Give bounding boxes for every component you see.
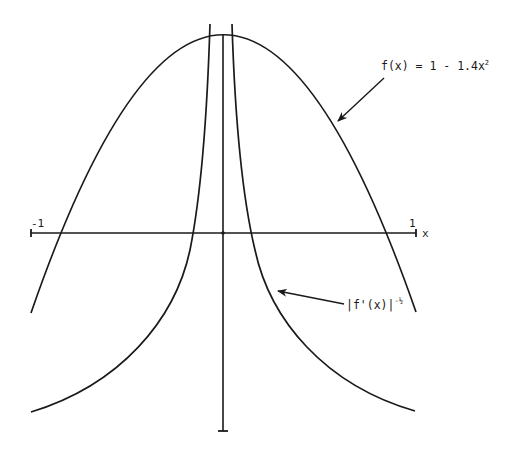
origin-dot [221,231,225,235]
parabola-label-base: f(x) = 1 - 1.4x [381,59,485,73]
derivative-label-base: |f'(x)| [346,298,394,312]
derivative-curve-right [232,24,415,411]
diagram-canvas: -1 1 x f(x) = 1 - 1.4x2 |f'(x)|-½ [0,0,505,461]
derivative-curve-left [31,24,210,412]
x-axis-right-tick-label: 1 [409,217,416,230]
x-axis-left-tick-label: -1 [31,217,44,230]
parabola-label-exponent: 2 [485,59,489,67]
parabola-label: f(x) = 1 - 1.4x2 [381,59,489,73]
derivative-label: |f'(x)|-½ [346,297,403,312]
derivative-label-arrow [278,291,344,304]
derivative-label-exponent: -½ [394,297,402,305]
parabola-label-arrow [338,78,384,121]
x-axis-label: x [422,227,429,240]
